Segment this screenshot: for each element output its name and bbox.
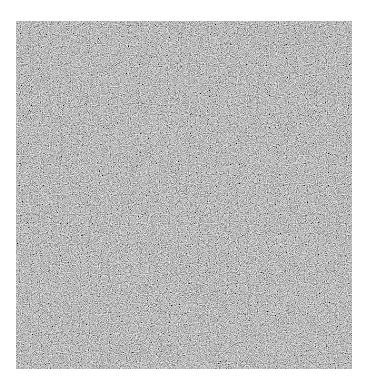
noise-texture-image [16,21,352,369]
noise-pattern [16,21,352,369]
